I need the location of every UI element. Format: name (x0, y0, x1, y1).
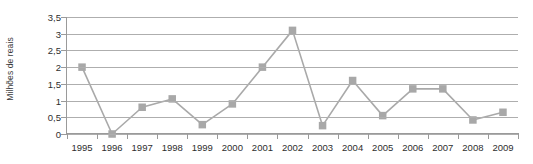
x-axis-tick-mark (277, 134, 278, 139)
x-axis-tick-mark (338, 134, 339, 139)
x-axis-tick-mark (157, 134, 158, 139)
gridline (67, 17, 518, 18)
x-axis-tick-label: 2003 (312, 142, 333, 153)
x-axis-tick-label: 2008 (462, 142, 483, 153)
y-axis-tick-mark (61, 67, 67, 68)
y-axis-tick-mark (61, 50, 67, 51)
line-chart: Milhões de reais 00,511,522,533,5 199519… (0, 0, 533, 164)
x-axis-tick-mark (398, 134, 399, 139)
y-axis-title-text: Milhões de reais (5, 37, 15, 101)
x-axis-tick-label: 1999 (192, 142, 213, 153)
y-axis-tick-mark (61, 84, 67, 85)
data-point-marker (319, 122, 327, 130)
y-axis-tick-mark (61, 117, 67, 118)
gridline (67, 101, 518, 102)
x-axis-tick-label: 2002 (282, 142, 303, 153)
x-axis-tick-label: 1996 (102, 142, 123, 153)
x-axis-tick-label: 1995 (71, 142, 92, 153)
x-axis-tick-label: 2005 (372, 142, 393, 153)
x-axis-tick-label: 2007 (432, 142, 453, 153)
x-axis-tick-label: 2001 (252, 142, 273, 153)
x-axis-tick-label: 1997 (132, 142, 153, 153)
gridline (67, 50, 518, 51)
y-axis-tick-labels: 00,511,522,533,5 (20, 0, 65, 164)
x-axis-tick-mark (368, 134, 369, 139)
y-axis-tick-mark (61, 34, 67, 35)
x-axis-tick-mark (67, 134, 68, 139)
y-axis-tick-label: 1,5 (48, 78, 61, 89)
data-point-marker (409, 85, 417, 93)
x-axis-tick-mark (97, 134, 98, 139)
gridline (67, 84, 518, 85)
x-axis-tick-mark (428, 134, 429, 139)
gridline (67, 134, 518, 135)
gridline (67, 117, 518, 118)
x-axis-tick-mark (217, 134, 218, 139)
x-axis-tick-mark (458, 134, 459, 139)
y-axis-tick-mark (61, 101, 67, 102)
data-point-marker (499, 109, 507, 117)
y-axis-title: Milhões de reais (0, 0, 20, 137)
x-axis-tick-label: 2009 (492, 142, 513, 153)
gridline (67, 34, 518, 35)
x-axis-tick-mark (127, 134, 128, 139)
data-point-marker (138, 104, 146, 112)
x-axis-tick-mark (187, 134, 188, 139)
y-axis-tick-mark (61, 17, 67, 18)
x-axis-tick-label: 2000 (222, 142, 243, 153)
x-axis-tick-label: 2004 (342, 142, 363, 153)
x-axis-tick-mark (308, 134, 309, 139)
x-axis-tick-label: 2006 (402, 142, 423, 153)
y-axis-tick-label: 0,5 (48, 112, 61, 123)
series-line (82, 30, 503, 134)
plot-area (67, 17, 518, 134)
data-point-marker (199, 121, 207, 129)
gridline (67, 67, 518, 68)
data-point-marker (439, 85, 447, 93)
y-axis-tick-label: 3,5 (48, 12, 61, 23)
x-axis-tick-mark (247, 134, 248, 139)
x-axis-tick-mark (488, 134, 489, 139)
y-axis-tick-label: 2,5 (48, 45, 61, 56)
x-axis-tick-mark (518, 134, 519, 139)
x-axis-tick-label: 1998 (162, 142, 183, 153)
